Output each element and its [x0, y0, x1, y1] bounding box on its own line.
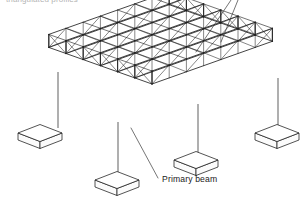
structure-member	[238, 22, 255, 29]
footing-left	[18, 125, 62, 149]
footing-group	[18, 125, 299, 196]
structure-member	[238, 41, 255, 48]
structure-member	[186, 0, 203, 17]
leader-line-group	[131, 0, 238, 178]
leader-line-primary-beam	[131, 128, 158, 178]
label-primary-beam: Primary beam	[162, 174, 217, 184]
structure-member	[152, 41, 272, 84]
structure-member	[66, 47, 83, 54]
structure-member	[204, 53, 221, 60]
structure-member	[204, 10, 221, 17]
roof-truss-grid	[49, 0, 273, 84]
structure-member	[100, 59, 117, 66]
footing-right	[255, 125, 299, 149]
structure-member	[83, 53, 100, 60]
structure-member	[49, 41, 66, 48]
structure-member	[135, 35, 255, 78]
structure-member	[169, 65, 186, 72]
footing-front-left	[95, 172, 139, 196]
footing-front-right	[174, 152, 218, 176]
figure-root: triangulated profiles Primary beam	[0, 0, 304, 198]
structure-member	[255, 28, 272, 35]
structure-member	[49, 0, 169, 34]
truss-isometric-drawing: Primary beam	[0, 0, 304, 198]
structure-member	[118, 65, 135, 72]
column-group	[58, 72, 278, 175]
structure-member	[186, 4, 203, 11]
structure-member	[169, 0, 186, 17]
structure-member	[135, 71, 152, 78]
